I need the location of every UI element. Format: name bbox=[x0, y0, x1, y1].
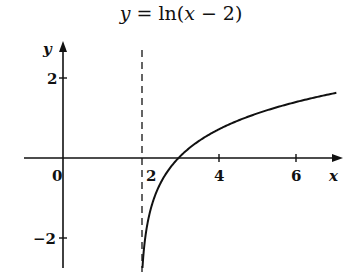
y-tick-label-2: 2 bbox=[47, 70, 57, 88]
x-tick-label-2: 2 bbox=[146, 167, 156, 185]
x-tick-label-0: 0 bbox=[52, 167, 62, 185]
chart-figure: y = ln(x − 2) 0 2 4 6 x y 2 −2 bbox=[0, 0, 362, 279]
y-axis-label: y bbox=[42, 40, 53, 58]
x-tick-label-4: 4 bbox=[214, 167, 224, 185]
y-tick-label-neg2: −2 bbox=[33, 230, 56, 248]
function-curve bbox=[142, 93, 336, 268]
x-axis-arrow-icon bbox=[332, 154, 343, 162]
y-axis-arrow-icon bbox=[59, 41, 67, 52]
plot-area: 0 2 4 6 x y 2 −2 bbox=[0, 0, 362, 279]
x-axis-label: x bbox=[328, 167, 339, 185]
x-tick-label-6: 6 bbox=[291, 167, 301, 185]
